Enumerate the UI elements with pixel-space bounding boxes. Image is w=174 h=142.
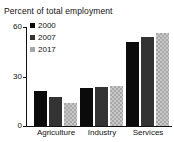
y-tick-60: 60 xyxy=(26,27,27,28)
bar-services-2007 xyxy=(141,37,154,126)
bar-agriculture-2017 xyxy=(64,103,77,126)
x-axis-line xyxy=(26,126,172,127)
y-tick-mark xyxy=(23,27,26,28)
y-tick-30: 30 xyxy=(26,77,27,78)
bar-agriculture-2007 xyxy=(49,97,62,126)
bar-group-agriculture: Agriculture xyxy=(34,27,78,126)
bar-chart: Percent of total employment 2000 2007 20… xyxy=(0,0,174,142)
y-tick-mark xyxy=(23,77,26,78)
bar-agriculture-2000 xyxy=(34,91,47,126)
bar-services-2017 xyxy=(156,33,169,126)
bar-industry-2000 xyxy=(80,88,93,126)
bar-industry-2007 xyxy=(95,87,108,126)
y-tick-label: 30 xyxy=(13,73,22,81)
bar-industry-2017 xyxy=(110,86,123,126)
chart-title: Percent of total employment xyxy=(4,6,113,16)
y-tick-0: 0 xyxy=(26,126,27,127)
y-tick-label: 0 xyxy=(18,122,22,130)
plot-area: 60 30 0 Agriculture Industry Services xyxy=(26,27,172,127)
y-tick-label: 60 xyxy=(13,23,22,31)
bar-services-2000 xyxy=(126,42,139,126)
x-axis-label-services: Services xyxy=(118,128,174,137)
bar-group-industry: Industry xyxy=(80,27,124,126)
y-tick-mark xyxy=(23,126,26,127)
bar-group-services: Services xyxy=(126,27,170,126)
